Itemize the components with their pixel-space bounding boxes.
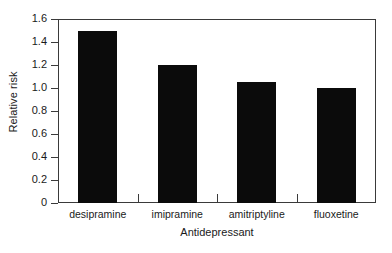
y-axis-tick-label: 1.2 [22,58,47,70]
y-axis-tick-mark [51,157,58,158]
x-axis-tick-label: amitriptyline [217,208,297,220]
y-axis-tick-label: 1.0 [22,81,47,93]
y-axis-tick-mark [51,180,58,181]
bar [158,65,197,203]
bar [237,82,276,203]
y-axis-tick-label: 0.4 [22,150,47,162]
bar-chart-figure: Relative risk 1.61.41.21.00.80.60.40.20 … [0,0,392,253]
y-axis-tick-mark [51,134,58,135]
x-axis-tick-label: desipramine [58,208,138,220]
bar [78,31,117,204]
y-axis-tick-label: 1.6 [22,12,47,24]
y-axis-tick-mark [51,88,58,89]
y-axis-tick-label: 1.4 [22,35,47,47]
x-axis-tick-mark [297,194,298,203]
y-axis-title-text: Relative risk [7,71,19,132]
y-axis-tick-label: 0 [22,196,47,208]
y-axis-tick-mark [51,42,58,43]
x-axis-tick-label: imipramine [138,208,218,220]
x-axis-tick-label: fluoxetine [297,208,377,220]
bar [317,88,356,203]
y-axis-tick-label: 0.8 [22,104,47,116]
x-axis-tick-mark [217,194,218,203]
y-axis-tick-label: 0.6 [22,127,47,139]
x-axis-title: Antidepressant [58,226,376,238]
y-axis-tick-mark [51,203,58,204]
y-axis-tick-mark [51,19,58,20]
y-axis-tick-label: 0.2 [22,173,47,185]
y-axis-tick-mark [51,65,58,66]
x-axis-tick-mark [138,194,139,203]
y-axis-tick-mark [51,111,58,112]
y-axis-title: Relative risk [4,0,22,203]
